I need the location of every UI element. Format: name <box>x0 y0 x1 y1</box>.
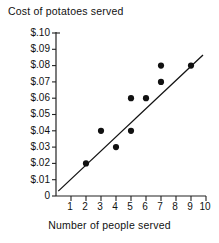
data-point <box>83 160 89 166</box>
data-point <box>128 128 134 134</box>
data-point <box>143 95 149 101</box>
data-point <box>158 79 164 85</box>
data-point <box>188 63 194 69</box>
data-point <box>158 63 164 69</box>
trend-line <box>58 55 203 191</box>
x-axis-label: Number of people served <box>0 219 219 231</box>
plot-area <box>0 0 219 243</box>
scatter-chart: Cost of potatoes served $.10 $.09 $.08 $… <box>0 0 219 243</box>
data-point <box>128 95 134 101</box>
data-point <box>113 144 119 150</box>
data-point <box>98 128 104 134</box>
data-points <box>83 63 194 167</box>
